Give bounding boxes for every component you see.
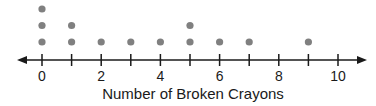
data-dot — [305, 38, 312, 45]
tick-label-10: 10 — [330, 68, 346, 84]
data-dot — [246, 38, 253, 45]
data-dot — [68, 22, 75, 29]
left-arrow-icon — [17, 56, 27, 64]
dots-layer — [38, 5, 312, 45]
tick-label-0: 0 — [38, 68, 46, 84]
x-axis-title: Number of Broken Crayons — [102, 85, 284, 102]
data-dot — [186, 22, 193, 29]
tick-label-2: 2 — [97, 68, 105, 84]
data-dot — [98, 38, 105, 45]
dot-plot: 0246810 Number of Broken Crayons — [0, 0, 376, 106]
data-dot — [38, 5, 45, 12]
tick-label-4: 4 — [157, 68, 165, 84]
data-dot — [38, 38, 45, 45]
data-dot — [68, 38, 75, 45]
number-line: 0246810 — [17, 54, 367, 84]
data-dot — [186, 38, 193, 45]
data-dot — [38, 22, 45, 29]
right-arrow-icon — [357, 56, 367, 64]
tick-labels: 0246810 — [38, 68, 346, 84]
tick-label-8: 8 — [275, 68, 283, 84]
data-dot — [216, 38, 223, 45]
data-dot — [157, 38, 164, 45]
data-dot — [127, 38, 134, 45]
tick-label-6: 6 — [216, 68, 224, 84]
